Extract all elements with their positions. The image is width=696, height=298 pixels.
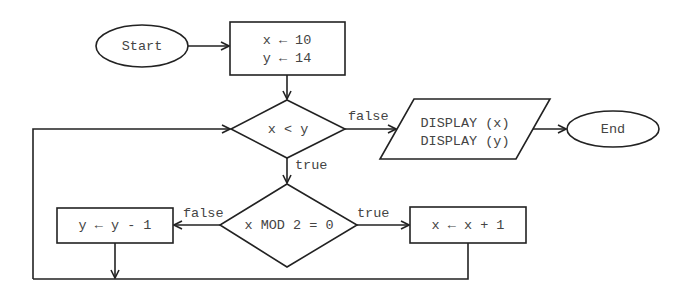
output-line-2: DISPLAY (y) — [420, 134, 509, 149]
init-line-2: y ← 14 — [263, 51, 312, 66]
increment-x-box: x ← x + 1 — [410, 207, 526, 243]
condition1-label: x < y — [268, 122, 309, 137]
condition1-true-label: true — [295, 158, 327, 173]
increment-label: x ← x + 1 — [432, 218, 505, 233]
start-label: Start — [122, 39, 163, 54]
condition-x-mod-2: x MOD 2 = 0 — [220, 184, 357, 267]
connector-increment-loop — [33, 243, 468, 279]
condition-x-less-y: x < y — [231, 100, 345, 158]
end-label: End — [601, 122, 625, 137]
decrement-label: y ← y - 1 — [79, 218, 152, 233]
connector-loop-back — [33, 129, 230, 279]
init-line-1: x ← 10 — [263, 33, 312, 48]
output-line-1: DISPLAY (x) — [420, 116, 509, 131]
start-node: Start — [96, 25, 188, 67]
condition2-true-label: true — [357, 206, 389, 221]
condition1-false-label: false — [348, 109, 389, 124]
output-display-node: DISPLAY (x) DISPLAY (y) — [380, 99, 550, 159]
init-process-box: x ← 10 y ← 14 — [230, 22, 345, 75]
flowchart: Start x ← 10 y ← 14 x < y false DISPLAY … — [0, 0, 696, 298]
condition2-label: x MOD 2 = 0 — [244, 218, 333, 233]
decrement-y-box: y ← y - 1 — [57, 208, 173, 243]
condition2-false-label: false — [183, 206, 224, 221]
end-node: End — [567, 111, 659, 147]
